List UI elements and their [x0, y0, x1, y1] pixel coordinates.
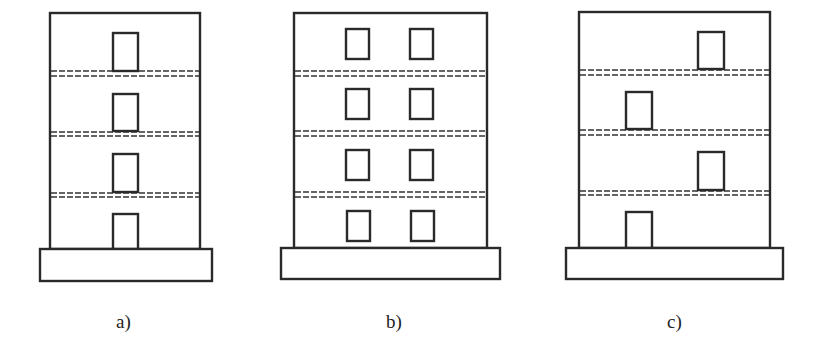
- window-opening: [346, 29, 369, 59]
- window-opening: [698, 32, 724, 69]
- window-opening: [626, 92, 652, 129]
- window-opening: [113, 94, 138, 131]
- window-opening: [698, 152, 724, 190]
- door-opening: [626, 212, 652, 248]
- window-opening: [347, 211, 370, 241]
- foundation-base: [40, 249, 212, 281]
- window-opening: [411, 211, 434, 241]
- panel-label-a: a): [116, 312, 131, 331]
- panel-label-c: c): [667, 312, 682, 331]
- window-opening: [113, 33, 138, 71]
- window-opening: [410, 29, 433, 59]
- floor-slabs: [295, 71, 486, 197]
- window-opening: [410, 150, 433, 180]
- panel-label-b: b): [386, 312, 402, 331]
- window-opening: [346, 89, 369, 119]
- window-opening: [346, 150, 369, 180]
- foundation-base: [566, 248, 783, 279]
- door-opening: [113, 214, 138, 249]
- window-opening: [410, 89, 433, 119]
- window-opening: [113, 154, 138, 192]
- floor-slabs: [580, 70, 769, 195]
- panel-b-building: [281, 13, 500, 279]
- facade-diagram: [0, 0, 814, 350]
- foundation-base: [281, 248, 500, 279]
- panel-a-building: [40, 13, 212, 281]
- panel-c-building: [566, 12, 783, 279]
